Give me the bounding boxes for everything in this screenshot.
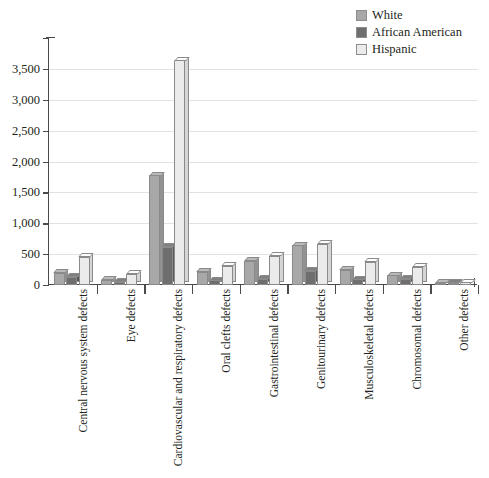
bar-african-american[interactable] [257, 279, 268, 285]
bar-white[interactable] [244, 261, 255, 285]
bar-hispanic[interactable] [126, 274, 137, 285]
bar-front-face [222, 266, 233, 285]
bar-group [430, 38, 478, 285]
bar-group [287, 38, 335, 285]
bar-front-face [292, 245, 303, 285]
y-tick-label: 0 [34, 279, 40, 291]
bar-chart: WhiteAfrican AmericanHispanic 05001,0001… [0, 0, 489, 478]
bar-front-face [352, 279, 363, 285]
x-axis-label: Chromosomal defects [411, 289, 424, 469]
bar-side-face [376, 259, 380, 282]
x-axis-labels: Central nervous system defectsEye defect… [48, 289, 477, 478]
bar-group [383, 38, 431, 285]
legend-item-label: White [372, 9, 403, 22]
bar-african-american[interactable] [305, 271, 316, 285]
bar-hispanic[interactable] [412, 267, 423, 285]
bar-hispanic[interactable] [269, 256, 280, 285]
bar-front-face [162, 247, 173, 285]
bar-front-face [209, 280, 220, 285]
x-axis-label: Other defects [458, 289, 471, 469]
y-tick-label: 1,500 [12, 186, 40, 198]
bar-front-face [257, 279, 268, 285]
y-tick-label: 3,000 [12, 94, 40, 106]
x-axis-label: Central nervous system defects [77, 289, 90, 469]
bar-group [192, 38, 240, 285]
bar-front-face [448, 283, 459, 285]
y-tick-label: 500 [21, 248, 40, 260]
bar-hispanic[interactable] [79, 257, 90, 285]
x-axis-label: Eye defects [125, 289, 138, 469]
bar-front-face [114, 282, 125, 285]
plot-area: 05001,0001,5002,0002,5003,0003,500 [48, 38, 477, 285]
legend-item[interactable]: White [356, 8, 462, 23]
bar-white[interactable] [197, 272, 208, 285]
y-tick-label: 3,500 [12, 63, 40, 75]
bar-white[interactable] [101, 280, 112, 285]
bar-front-face [365, 262, 376, 285]
bar-side-face [328, 241, 332, 282]
bar-african-american[interactable] [352, 279, 363, 285]
bar-hispanic[interactable] [460, 282, 471, 285]
x-axis-label: Musculoskeletal defects [363, 289, 376, 469]
bar-series-container [49, 38, 478, 285]
bar-front-face [66, 277, 77, 285]
bar-african-american[interactable] [66, 277, 77, 285]
bar-hispanic[interactable] [365, 262, 376, 285]
bar-african-american[interactable] [400, 279, 411, 285]
bar-white[interactable] [292, 245, 303, 285]
legend-swatch-icon [356, 27, 367, 38]
bar-white[interactable] [387, 275, 398, 285]
bar-group [97, 38, 145, 285]
bar-white[interactable] [340, 270, 351, 285]
bar-top-face [460, 279, 476, 283]
bar-african-american[interactable] [209, 280, 220, 285]
bar-white[interactable] [149, 175, 160, 285]
bar-group [49, 38, 97, 285]
bar-side-face [90, 254, 94, 282]
bar-african-american[interactable] [162, 247, 173, 285]
bar-front-face [126, 274, 137, 285]
bar-front-face [101, 280, 112, 285]
bar-front-face [387, 275, 398, 285]
bar-african-american[interactable] [448, 283, 459, 285]
bar-front-face [197, 272, 208, 285]
legend-swatch-icon [356, 10, 367, 21]
bar-side-face [280, 253, 284, 282]
bar-front-face [269, 256, 280, 285]
bar-hispanic[interactable] [317, 244, 328, 285]
bar-group [335, 38, 383, 285]
bar-front-face [305, 271, 316, 285]
bar-front-face [174, 60, 185, 285]
bar-front-face [149, 175, 160, 285]
bar-front-face [317, 244, 328, 285]
x-axis-label: Oral clefts defects [220, 289, 233, 469]
x-axis-label: Genitourinary defects [315, 289, 328, 469]
bar-hispanic[interactable] [222, 266, 233, 285]
bar-hispanic[interactable] [174, 60, 185, 285]
bar-white[interactable] [435, 283, 446, 285]
bar-front-face [340, 270, 351, 285]
bar-front-face [79, 257, 90, 285]
bar-front-face [400, 279, 411, 285]
x-axis-label: Gastrointestinal defects [268, 289, 281, 469]
bar-white[interactable] [54, 273, 65, 285]
x-axis-label: Cardiovascular and respiratory defects [172, 289, 185, 469]
bar-side-face [185, 57, 189, 282]
bar-group [240, 38, 288, 285]
y-tick-label: 1,000 [12, 217, 40, 229]
bar-african-american[interactable] [114, 282, 125, 285]
y-tick-label: 2,000 [12, 156, 40, 168]
bar-front-face [54, 273, 65, 285]
bar-front-face [244, 261, 255, 285]
bar-group [144, 38, 192, 285]
y-tick-mark [43, 285, 49, 286]
bar-front-face [412, 267, 423, 285]
y-tick-label: 2,500 [12, 125, 40, 137]
x-axis-separator [478, 285, 479, 294]
